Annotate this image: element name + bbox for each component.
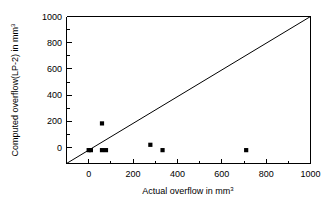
data-point-marker: [148, 143, 152, 147]
chart-figure: 1000 800 600 400 200 0 0 200 400 600 800…: [0, 0, 328, 206]
x-tick-label-1000: 1000: [300, 169, 320, 179]
y-axis-ticks: [67, 17, 72, 148]
x-tick-label-400: 400: [170, 169, 185, 179]
x-tick-label-200: 200: [126, 169, 141, 179]
data-point-marker: [100, 121, 104, 125]
x-tick-labels: 0 200 400 600 800 1000: [86, 169, 320, 179]
x-tick-label-600: 600: [214, 169, 229, 179]
data-point-marker: [160, 148, 164, 152]
x-axis-ticks: [89, 159, 311, 164]
y-axis-title: Computed overflow(LP-2) in mm3: [10, 23, 20, 157]
data-point-marker: [244, 148, 248, 152]
identity-reference-line: [67, 17, 311, 164]
y-axis-title-base: Computed overflow(LP-2) in mm: [10, 27, 20, 157]
data-point-marker: [89, 148, 93, 152]
y-tick-label-600: 600: [47, 64, 62, 74]
x-axis-title-superscript: 3: [230, 186, 234, 192]
y-tick-labels: 1000 800 600 400 200 0: [42, 12, 62, 153]
y-tick-label-0: 0: [57, 143, 62, 153]
data-point-marker: [100, 148, 104, 152]
y-tick-label-400: 400: [47, 90, 62, 100]
x-tick-label-0: 0: [86, 169, 91, 179]
data-point-marker: [104, 148, 108, 152]
y-tick-label-1000: 1000: [42, 12, 62, 22]
y-axis-title-superscript: 3: [10, 23, 16, 27]
x-tick-label-800: 800: [259, 169, 274, 179]
scatter-plot: 1000 800 600 400 200 0 0 200 400 600 800…: [0, 0, 328, 206]
x-axis-title-base: Actual overflow in mm: [142, 186, 230, 196]
y-tick-label-800: 800: [47, 38, 62, 48]
x-axis-title: Actual overflow in mm3: [142, 186, 234, 196]
y-tick-label-200: 200: [47, 116, 62, 126]
